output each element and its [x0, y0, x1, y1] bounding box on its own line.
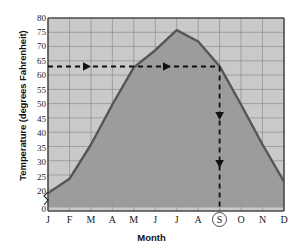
x-tick-label-feb: F [60, 214, 80, 225]
x-tick-label-may: M [124, 214, 144, 225]
x-tick-label-mar: M [81, 214, 101, 225]
x-tick-label-jan: J [38, 214, 58, 225]
x-tick-label-jun: J [145, 214, 165, 225]
temperature-line-chart: Temperature (degrees Fahrenheit) 80 75 7… [0, 0, 303, 252]
x-tick-label-jul: J [167, 214, 187, 225]
x-axis-label: Month [0, 232, 303, 243]
x-tick-label-apr: A [102, 214, 122, 225]
x-tick-label-oct: O [231, 214, 251, 225]
x-tick-label-aug: A [188, 214, 208, 225]
x-tick-label-nov: N [253, 214, 273, 225]
highlight-circle-september [212, 212, 227, 227]
x-tick-label-dec: D [274, 214, 294, 225]
